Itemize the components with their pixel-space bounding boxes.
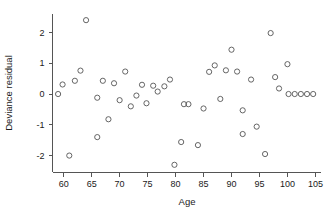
y-axis-ticks: 210-1-2 bbox=[36, 28, 52, 161]
x-tick-label: 60 bbox=[59, 179, 69, 189]
x-axis: 6065707580859095100105 bbox=[53, 173, 323, 189]
data-point bbox=[268, 30, 273, 35]
y-axis-title: Deviance residual bbox=[3, 55, 14, 131]
data-point bbox=[67, 153, 72, 158]
data-point bbox=[298, 91, 303, 96]
data-point bbox=[144, 101, 149, 106]
data-point bbox=[139, 82, 144, 87]
data-point bbox=[248, 77, 253, 82]
y-axis: 210-1-2 bbox=[36, 14, 52, 172]
x-tick-label: 105 bbox=[308, 179, 323, 189]
data-point bbox=[179, 139, 184, 144]
data-point bbox=[162, 84, 167, 89]
x-tick-label: 80 bbox=[171, 179, 181, 189]
data-point bbox=[273, 74, 278, 79]
data-point bbox=[218, 96, 223, 101]
data-point bbox=[223, 68, 228, 73]
x-tick-label: 90 bbox=[226, 179, 236, 189]
data-point bbox=[155, 89, 160, 94]
x-tick-label: 65 bbox=[87, 179, 97, 189]
data-point bbox=[201, 106, 206, 111]
data-point bbox=[95, 135, 100, 140]
data-point bbox=[292, 91, 297, 96]
data-point bbox=[286, 91, 291, 96]
x-tick-label: 75 bbox=[143, 179, 153, 189]
x-axis-title: Age bbox=[179, 196, 196, 207]
x-tick-label: 100 bbox=[280, 179, 295, 189]
data-point bbox=[229, 47, 234, 52]
data-point bbox=[123, 69, 128, 74]
data-point bbox=[111, 81, 116, 86]
data-point bbox=[117, 98, 122, 103]
x-axis-ticks: 6065707580859095100105 bbox=[59, 173, 323, 189]
data-point bbox=[207, 69, 212, 74]
data-point bbox=[285, 62, 290, 67]
data-point bbox=[172, 162, 177, 167]
data-point bbox=[106, 117, 111, 122]
data-point bbox=[100, 78, 105, 83]
data-point bbox=[311, 91, 316, 96]
x-tick-label: 85 bbox=[199, 179, 209, 189]
data-point bbox=[212, 63, 217, 68]
data-point bbox=[78, 68, 83, 73]
data-point bbox=[151, 83, 156, 88]
y-tick-label: -2 bbox=[36, 151, 44, 161]
y-tick-label: -1 bbox=[36, 120, 44, 130]
data-point bbox=[128, 104, 133, 109]
y-tick-label: 2 bbox=[39, 28, 44, 38]
data-points-layer bbox=[55, 18, 315, 168]
y-tick-label: 1 bbox=[39, 58, 44, 68]
data-point bbox=[83, 18, 88, 23]
data-point bbox=[55, 91, 60, 96]
data-point bbox=[240, 131, 245, 136]
data-point bbox=[60, 82, 65, 87]
x-tick-label: 70 bbox=[115, 179, 125, 189]
x-tick-label: 95 bbox=[254, 179, 264, 189]
data-point bbox=[254, 124, 259, 129]
data-point bbox=[304, 91, 309, 96]
data-point bbox=[195, 143, 200, 148]
data-point bbox=[234, 69, 239, 74]
data-point bbox=[95, 95, 100, 100]
data-point bbox=[276, 86, 281, 91]
data-point bbox=[134, 93, 139, 98]
y-tick-label: 0 bbox=[39, 89, 44, 99]
data-point bbox=[167, 77, 172, 82]
plot-canvas: 210-1-2 6065707580859095100105 Age Devia… bbox=[0, 0, 335, 223]
data-point bbox=[72, 78, 77, 83]
scatter-plot-figure: 210-1-2 6065707580859095100105 Age Devia… bbox=[0, 0, 335, 223]
data-point bbox=[240, 108, 245, 113]
data-point bbox=[262, 151, 267, 156]
